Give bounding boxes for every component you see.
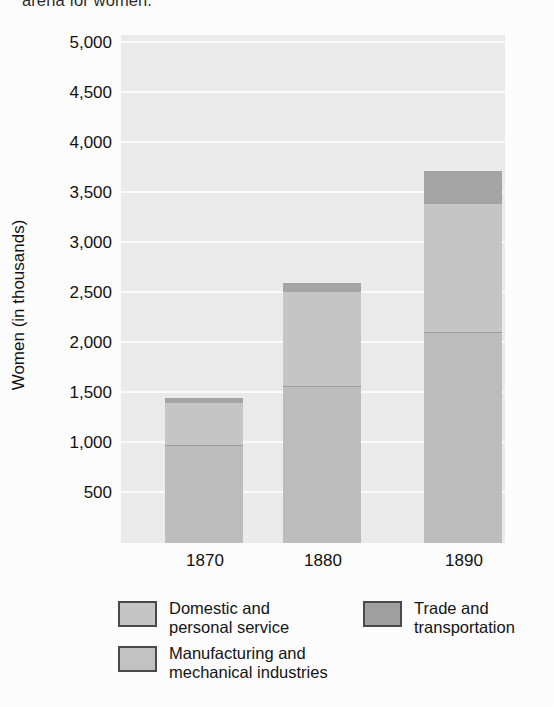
bar-segment-trade-1890 — [424, 171, 502, 204]
bar-segment-manufacturing-1890 — [424, 333, 502, 543]
bar-segment-domestic-1890 — [424, 204, 502, 332]
legend-label-domestic: Domestic and personal service — [169, 599, 289, 637]
y-tick-label-4500: 4,500 — [40, 83, 112, 103]
legend-swatch-trade-icon — [363, 601, 402, 627]
stacked-bar-chart: Women (in thousands) 5,000 4,500 4,000 3… — [0, 0, 554, 707]
y-axis-title-wrap: Women (in thousands) — [4, 180, 34, 430]
y-tick-label-5000: 5,000 — [40, 33, 112, 53]
y-tick-label-2000: 2,000 — [40, 333, 112, 353]
legend-swatch-domestic-icon — [118, 601, 157, 627]
y-tick-label-3000: 3,000 — [40, 233, 112, 253]
x-tick-label-1870: 1870 — [160, 551, 250, 571]
chart-legend: Domestic and personal service Manufactur… — [118, 595, 548, 695]
bar-segment-domestic-1880 — [283, 292, 361, 386]
legend-item-domestic[interactable]: Domestic and personal service — [118, 599, 289, 637]
x-tick-label-1890: 1890 — [419, 551, 509, 571]
legend-item-trade[interactable]: Trade and transportation — [363, 599, 515, 637]
gridline-5000 — [121, 41, 505, 43]
bar-segment-domestic-1870 — [165, 403, 243, 445]
y-tick-label-3500: 3,500 — [40, 183, 112, 203]
bar-segment-manufacturing-1870 — [165, 446, 243, 543]
y-tick-label-1500: 1,500 — [40, 383, 112, 403]
gridline-4500 — [121, 91, 505, 93]
legend-item-manufacturing[interactable]: Manufacturing and mechanical industries — [118, 644, 328, 682]
bar-1890[interactable] — [424, 171, 502, 543]
legend-label-trade: Trade and transportation — [414, 599, 515, 637]
bar-1880[interactable] — [283, 283, 361, 543]
y-tick-label-500: 500 — [40, 483, 112, 503]
bar-segment-manufacturing-1880 — [283, 387, 361, 543]
bar-segment-trade-1880 — [283, 283, 361, 292]
y-tick-label-4000: 4,000 — [40, 133, 112, 153]
y-tick-label-2500: 2,500 — [40, 283, 112, 303]
x-tick-label-1880: 1880 — [278, 551, 368, 571]
legend-label-manufacturing: Manufacturing and mechanical industries — [169, 644, 328, 682]
y-tick-label-1000: 1,000 — [40, 433, 112, 453]
legend-swatch-manufacturing-icon — [118, 646, 157, 672]
plot-area — [121, 35, 505, 543]
gridline-4000 — [121, 141, 505, 143]
bar-1870[interactable] — [165, 398, 243, 543]
y-axis-title: Women (in thousands) — [9, 220, 29, 391]
